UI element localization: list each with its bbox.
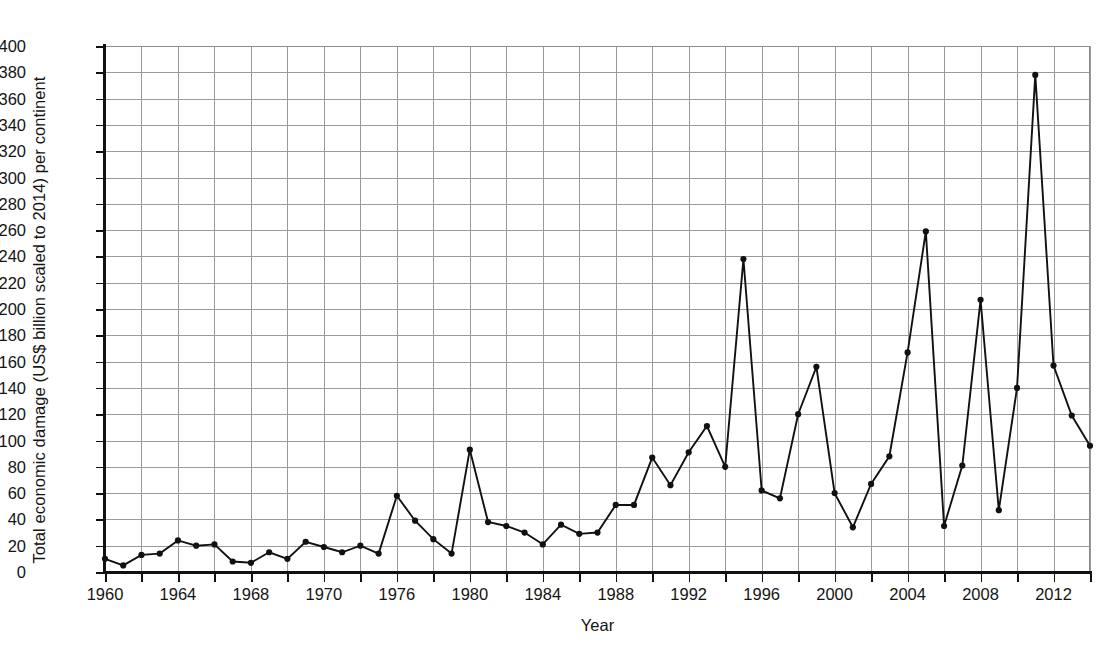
y-axis-tick-label: 0 xyxy=(0,564,26,581)
data-point xyxy=(667,482,673,488)
y-axis-tick-label: 380 xyxy=(0,64,26,81)
data-point xyxy=(813,364,819,370)
data-point xyxy=(120,562,126,568)
y-axis-tick-label: 80 xyxy=(0,459,26,476)
x-axis-tick xyxy=(141,573,143,582)
y-axis-tick xyxy=(96,519,105,521)
data-point xyxy=(977,297,983,303)
data-point xyxy=(996,507,1002,513)
data-point xyxy=(284,556,290,562)
x-axis-tick xyxy=(981,573,983,582)
y-axis-tick xyxy=(96,335,105,337)
data-point xyxy=(175,537,181,543)
x-axis-tick xyxy=(433,573,435,582)
x-axis-tick-label: 1984 xyxy=(503,586,583,603)
data-point xyxy=(540,541,546,547)
y-axis-tick-label: 320 xyxy=(0,143,26,160)
data-point xyxy=(339,549,345,555)
data-point xyxy=(138,552,144,558)
data-point xyxy=(740,256,746,262)
data-point xyxy=(1014,385,1020,391)
y-axis-tick-label: 360 xyxy=(0,91,26,108)
data-point xyxy=(1087,443,1093,449)
x-axis-tick-label: 2004 xyxy=(868,586,948,603)
x-axis-tick xyxy=(616,573,618,582)
x-axis-tick xyxy=(506,573,508,582)
x-axis-tick xyxy=(470,573,472,582)
y-axis-tick-label: 20 xyxy=(0,538,26,555)
y-axis-tick-label: 60 xyxy=(0,485,26,502)
y-axis-tick xyxy=(96,362,105,364)
y-axis-tick xyxy=(96,72,105,74)
y-axis-tick-label: 240 xyxy=(0,248,26,265)
data-point xyxy=(576,531,582,537)
x-axis-title: Year xyxy=(105,616,1090,635)
y-axis-tick xyxy=(96,125,105,127)
x-axis-tick xyxy=(1090,573,1092,582)
y-axis-tick xyxy=(96,151,105,153)
y-axis-tick-label: 200 xyxy=(0,301,26,318)
y-axis-tick xyxy=(96,493,105,495)
x-axis-tick xyxy=(214,573,216,582)
y-axis-tick-label: 160 xyxy=(0,354,26,371)
x-axis-tick xyxy=(579,573,581,582)
x-axis-tick xyxy=(798,573,800,582)
data-point xyxy=(613,502,619,508)
data-point xyxy=(868,481,874,487)
y-axis-tick xyxy=(96,256,105,258)
data-point xyxy=(211,541,217,547)
y-axis-tick-label: 100 xyxy=(0,433,26,450)
y-axis-tick-label: 120 xyxy=(0,406,26,423)
data-point xyxy=(485,519,491,525)
data-point xyxy=(941,523,947,529)
y-axis-tick xyxy=(96,467,105,469)
gridline-vertical xyxy=(1090,46,1091,572)
data-point xyxy=(448,550,454,556)
y-axis-tick-label: 280 xyxy=(0,196,26,213)
x-axis-tick-label: 2012 xyxy=(1014,586,1094,603)
x-axis-tick xyxy=(1017,573,1019,582)
x-axis-tick xyxy=(762,573,764,582)
data-point xyxy=(430,536,436,542)
x-axis-tick xyxy=(251,573,253,582)
data-point xyxy=(777,495,783,501)
x-axis-tick xyxy=(944,573,946,582)
y-axis-tick xyxy=(96,99,105,101)
y-axis-tick-label: 340 xyxy=(0,117,26,134)
y-axis-tick xyxy=(96,178,105,180)
y-axis-title: Total economic damage (US$ billion scale… xyxy=(22,40,56,600)
y-axis-tick xyxy=(96,441,105,443)
x-axis-tick xyxy=(652,573,654,582)
y-axis-tick xyxy=(96,546,105,548)
y-axis-tick-label: 400 xyxy=(0,38,26,55)
data-point xyxy=(321,544,327,550)
x-axis-tick-label: 1996 xyxy=(722,586,802,603)
x-axis-tick xyxy=(835,573,837,582)
data-point xyxy=(1069,412,1075,418)
y-axis-tick xyxy=(96,388,105,390)
x-axis-tick xyxy=(178,573,180,582)
data-point xyxy=(303,539,309,545)
data-point xyxy=(850,524,856,530)
y-axis-tick xyxy=(96,572,105,574)
x-axis-tick-label: 1980 xyxy=(430,586,510,603)
data-point xyxy=(266,549,272,555)
data-point xyxy=(923,228,929,234)
x-axis-tick xyxy=(105,573,107,582)
data-point xyxy=(558,522,564,528)
x-axis-tick-label: 2008 xyxy=(941,586,1021,603)
y-axis-tick xyxy=(96,283,105,285)
x-axis-tick-label: 1992 xyxy=(649,586,729,603)
data-point xyxy=(686,449,692,455)
x-axis-tick xyxy=(689,573,691,582)
x-axis-tick-label: 2000 xyxy=(795,586,875,603)
x-axis-tick-label: 1968 xyxy=(211,586,291,603)
series-markers xyxy=(102,72,1093,569)
y-axis-tick xyxy=(96,204,105,206)
x-axis-tick-label: 1976 xyxy=(357,586,437,603)
y-axis-tick xyxy=(96,46,105,48)
data-point xyxy=(503,523,509,529)
y-axis-tick-label: 260 xyxy=(0,222,26,239)
x-axis-tick xyxy=(287,573,289,582)
data-point xyxy=(376,550,382,556)
